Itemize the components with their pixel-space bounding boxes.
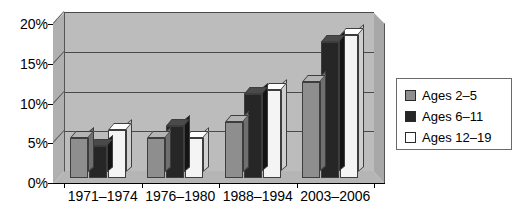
- x-axis-tick-mark: [219, 183, 220, 188]
- legend-item: Ages 12–19: [405, 128, 491, 146]
- y-axis-tick-label: 0%: [2, 176, 48, 190]
- bar-2003-2006-ages-2-5: [302, 82, 320, 177]
- bar-front-face: [70, 138, 88, 178]
- bar-1976-1980-ages-2-5: [147, 138, 165, 178]
- x-axis-tick-label: 1988–1994: [223, 189, 293, 204]
- bars-layer: [53, 12, 384, 184]
- bar-1971-1974-ages-2-5: [70, 138, 88, 178]
- x-axis-tick-mark: [374, 183, 375, 188]
- legend-item: Ages 6–11: [405, 107, 483, 125]
- legend-swatch-icon: [405, 90, 416, 101]
- x-axis-tick-mark: [297, 183, 298, 188]
- plot-area: [53, 12, 384, 184]
- legend-item-label: Ages 2–5: [422, 89, 477, 102]
- legend-item-label: Ages 12–19: [422, 131, 491, 144]
- bar-1988-1994-ages-2-5: [225, 122, 243, 178]
- legend: Ages 2–5Ages 6–11Ages 12–19: [396, 78, 512, 150]
- bar-side-face: [262, 83, 268, 172]
- legend-swatch-icon: [405, 132, 416, 143]
- bar-front-face: [225, 122, 243, 178]
- bar-side-face: [281, 79, 287, 171]
- bar-front-face: [147, 138, 165, 178]
- x-axis: 1971–19741976–19801988–19942003–2006: [53, 184, 384, 210]
- bar-front-face: [302, 82, 320, 177]
- bar-side-face: [320, 71, 326, 171]
- bar-chart: 0%5%10%15%20% 1971–19741976–19801988–199…: [0, 0, 521, 214]
- legend-swatch-icon: [405, 111, 416, 122]
- y-axis: 0%5%10%15%20%: [0, 0, 48, 214]
- y-axis-tick-label: 20%: [2, 17, 48, 31]
- x-axis-tick-label: 1971–1974: [68, 189, 138, 204]
- y-axis-tick-label: 15%: [2, 57, 48, 71]
- bar-side-face: [339, 31, 345, 171]
- y-axis-tick-label: 10%: [2, 97, 48, 111]
- legend-item: Ages 2–5: [405, 86, 477, 104]
- legend-item-label: Ages 6–11: [422, 110, 483, 123]
- x-axis-tick-label: 1976–1980: [145, 189, 215, 204]
- x-axis-tick-label: 2003–2006: [300, 189, 370, 204]
- x-axis-tick-mark: [142, 183, 143, 188]
- bar-side-face: [358, 23, 364, 171]
- x-axis-tick-mark: [64, 183, 65, 188]
- y-axis-tick-label: 5%: [2, 136, 48, 150]
